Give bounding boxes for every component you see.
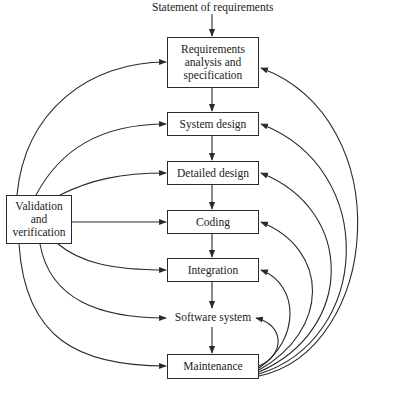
requirements-line-1: Requirements xyxy=(181,43,245,56)
maintenance-to-detailed-design xyxy=(259,173,331,372)
system-design-box: System design xyxy=(167,112,259,136)
maintenance-to-software-system xyxy=(256,318,278,366)
vv-to-system-design xyxy=(36,124,166,195)
vv-to-integration xyxy=(58,244,166,270)
system-design-label: System design xyxy=(180,118,247,131)
maintenance-label: Maintenance xyxy=(183,360,242,373)
integration-label: Integration xyxy=(188,264,238,277)
vv-line-3: verification xyxy=(12,226,65,239)
detailed-design-label: Detailed design xyxy=(177,167,249,180)
software-system-label: Software system xyxy=(167,311,259,323)
coding-box: Coding xyxy=(167,210,259,234)
validation-verification-box: Validation and verification xyxy=(6,195,72,244)
requirements-line-2: analysis and xyxy=(185,56,242,69)
vv-to-requirements xyxy=(17,62,166,195)
vv-line-1: Validation xyxy=(15,200,62,213)
coding-label: Coding xyxy=(196,216,230,229)
vv-to-detailed-design xyxy=(60,173,166,195)
requirements-box: Requirements analysis and specification xyxy=(167,37,259,88)
requirements-line-3: specification xyxy=(184,69,243,82)
statement-of-requirements-label: Statement of requirements xyxy=(152,1,272,13)
integration-box: Integration xyxy=(167,258,259,282)
vv-line-2: and xyxy=(31,213,48,226)
maintenance-to-system-design xyxy=(259,124,346,374)
maintenance-box: Maintenance xyxy=(167,354,259,379)
maintenance-to-requirements xyxy=(259,68,358,376)
detailed-design-box: Detailed design xyxy=(167,161,259,185)
vv-to-software-system xyxy=(40,244,166,318)
